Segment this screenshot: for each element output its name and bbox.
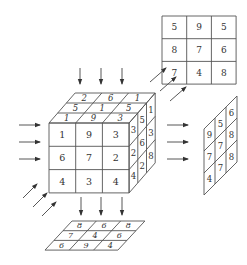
cell-value: 3 (86, 176, 92, 187)
cell-value: 6 (229, 108, 234, 118)
top-face-line (102, 93, 128, 123)
cell-value: 4 (196, 68, 202, 78)
cell-value: 6 (101, 221, 106, 230)
cell-value: 4 (107, 241, 113, 250)
cell-value: 8 (77, 221, 82, 230)
cell-value: 2 (113, 152, 119, 163)
cell-value: 2 (131, 148, 136, 158)
cell-value: 5 (126, 103, 131, 113)
diagonal-arrow-top-right-0 (150, 68, 166, 82)
cell-value: 5 (221, 22, 227, 32)
cell-value: 6 (59, 241, 64, 250)
cell-value: 8 (148, 151, 153, 161)
cell-value: 7 (218, 141, 223, 151)
cell-value: 8 (229, 130, 234, 140)
cell-value: 8 (126, 221, 131, 230)
cell-value: 6 (139, 138, 144, 148)
cell-value: 5 (218, 119, 223, 129)
bottom-projection: 868746694 (45, 221, 145, 250)
cell-value: 4 (207, 174, 212, 184)
cell-value: 2 (139, 161, 144, 171)
cell-value: 9 (83, 241, 88, 250)
top-face-line (76, 93, 102, 123)
cube-projection-diagram: 193672434261515193351263428 595876748 95… (0, 0, 247, 265)
cell-value: 9 (207, 130, 212, 140)
cell-value: 9 (91, 113, 97, 123)
bottom-panel-line (118, 221, 145, 250)
cell-value: 5 (139, 115, 144, 125)
cell-value: 7 (218, 163, 223, 173)
arrows (19, 68, 188, 216)
cell-value: 7 (171, 68, 177, 78)
cell-value: 4 (131, 171, 136, 181)
cell-value: 7 (86, 152, 92, 163)
top-right-projection: 595876748 (162, 16, 236, 84)
cell-value: 6 (59, 152, 65, 163)
cell-value: 3 (148, 128, 153, 138)
cell-value: 1 (64, 113, 69, 123)
cell-value: 7 (207, 152, 212, 162)
cell-value: 3 (131, 125, 136, 135)
cell-value: 8 (229, 152, 234, 162)
diagonal-arrow-bottom-left-0 (23, 184, 37, 198)
diagonal-arrow-bottom-left-2 (42, 202, 56, 216)
cell-value: 6 (108, 93, 114, 103)
cell-value: 4 (91, 231, 97, 240)
cell-value: 9 (196, 22, 202, 32)
diagonal-arrow-bottom-left-1 (33, 193, 47, 207)
cell-value: 8 (221, 68, 227, 78)
cell-value: 4 (59, 176, 65, 187)
diagonal-arrow-top-right-2 (170, 87, 186, 101)
cell-value: 3 (113, 129, 119, 140)
cell-value: 8 (171, 45, 177, 55)
cell-value: 5 (171, 22, 177, 32)
cell-value: 7 (196, 45, 202, 55)
cell-value: 9 (86, 129, 92, 140)
cube: 193672434261515193351263428 (49, 93, 155, 193)
cell-value: 4 (113, 176, 119, 187)
cell-value: 1 (99, 103, 104, 113)
diagram-canvas: 193672434261515193351263428 595876748 95… (0, 0, 247, 265)
cell-value: 6 (221, 45, 227, 55)
top-face-line (49, 93, 75, 123)
cell-value: 2 (80, 93, 86, 103)
cell-value: 7 (68, 231, 74, 240)
cell-value: 3 (117, 113, 122, 123)
cell-value: 1 (148, 105, 153, 115)
right-projection: 956778478 (204, 96, 237, 195)
cell-value: 1 (59, 129, 65, 140)
cell-value: 5 (73, 103, 78, 113)
cell-value: 6 (117, 231, 122, 240)
cell-value: 1 (135, 93, 140, 103)
